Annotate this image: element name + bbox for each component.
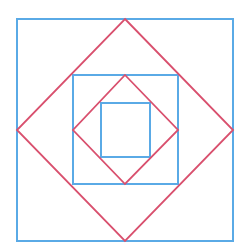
inner-square bbox=[101, 103, 150, 157]
outer-square bbox=[17, 19, 233, 241]
inner-diamond bbox=[73, 75, 178, 184]
outer-diamond bbox=[17, 19, 233, 241]
nested-shapes-diagram bbox=[0, 0, 252, 247]
middle-square bbox=[73, 75, 178, 184]
